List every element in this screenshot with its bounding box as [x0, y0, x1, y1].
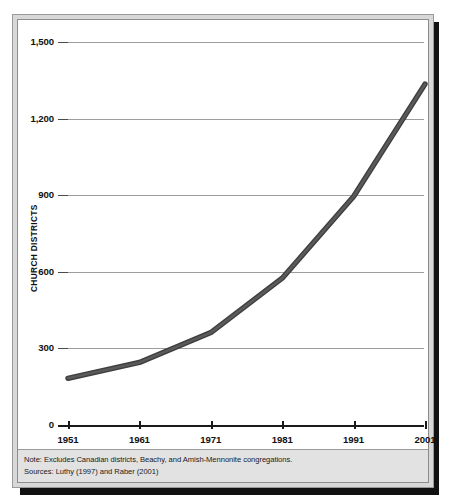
y-axis-tick [58, 272, 68, 273]
x-axis-tick [425, 421, 427, 429]
y-axis-tick [58, 42, 68, 43]
y-axis-tick [58, 425, 68, 427]
plot-area [18, 20, 428, 447]
x-axis-tick [139, 421, 141, 429]
x-axis-tick [282, 421, 284, 429]
y-axis-tick-label: 300 [12, 342, 54, 353]
y-axis-tick-label: 0 [12, 419, 54, 430]
y-gridline [68, 348, 424, 349]
x-axis-tick [354, 421, 356, 429]
y-gridline [68, 119, 424, 120]
y-axis-tick-label: 900 [12, 189, 54, 200]
y-gridline [68, 272, 424, 273]
x-axis-tick [68, 421, 70, 429]
y-axis-title: CHURCH DISTRICTS [29, 204, 39, 292]
y-axis-tick-label: 1,500 [12, 36, 54, 47]
y-gridline [68, 42, 424, 43]
figure-note-strip: Note: Excludes Canadian districts, Beach… [18, 449, 428, 482]
x-axis-tick-label: 1971 [189, 434, 233, 445]
y-gridline [68, 195, 424, 196]
y-axis-tick [58, 348, 68, 349]
x-axis-tick-label: 2001 [403, 434, 447, 445]
y-axis-tick-label: 1,200 [12, 113, 54, 124]
figure-note-line-2: Sources: Luthy (1997) and Raber (2001) [24, 467, 158, 476]
x-axis-line [68, 425, 424, 427]
x-axis-tick-label: 1951 [46, 434, 90, 445]
y-axis-tick [58, 195, 68, 196]
figure-root: 03006009001,2001,50019511961197119811991… [0, 0, 465, 502]
x-axis-tick-label: 1991 [332, 434, 376, 445]
x-axis-tick-label: 1961 [117, 434, 161, 445]
x-axis-tick [211, 421, 213, 429]
y-axis-tick [58, 119, 68, 120]
figure-note-line-1: Note: Excludes Canadian districts, Beach… [24, 455, 292, 464]
x-axis-tick-label: 1981 [260, 434, 304, 445]
